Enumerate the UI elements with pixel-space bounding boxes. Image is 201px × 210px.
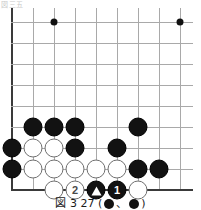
go-stone-white[interactable] (45, 160, 64, 179)
board-line-horizontal (11, 85, 193, 86)
caption-separator: 、 (116, 197, 127, 210)
go-stone-white[interactable] (87, 160, 106, 179)
go-stone-black[interactable] (108, 139, 127, 158)
caption-left-text: 図 3 27 ( (55, 197, 102, 210)
move-number-label: 2 (72, 185, 78, 196)
go-stone-black[interactable] (129, 118, 148, 137)
go-stone-black[interactable] (24, 118, 43, 137)
board-line-horizontal (11, 43, 193, 44)
go-stone-white[interactable] (24, 139, 43, 158)
go-stone-black[interactable] (150, 160, 169, 179)
go-stone-black[interactable] (45, 118, 64, 137)
star-point (177, 19, 184, 26)
go-stone-black[interactable] (129, 160, 148, 179)
go-stone-white[interactable] (108, 160, 127, 179)
go-stone-white[interactable] (45, 139, 64, 158)
caption-black-stone-1 (104, 199, 114, 209)
go-stone-black[interactable] (3, 139, 22, 158)
figure-caption: 図 3 27 ( 、 ) (0, 197, 201, 210)
triangle-marker-icon (91, 186, 101, 195)
star-point (51, 19, 58, 26)
board-line-horizontal (11, 22, 193, 23)
go-board[interactable]: 21 (0, 0, 201, 200)
go-stone-black[interactable] (66, 139, 85, 158)
go-stone-black[interactable] (66, 118, 85, 137)
board-line-vertical (180, 8, 181, 190)
go-diagram-figure: 図三五 21 図 3 27 ( 、 ) (0, 0, 201, 210)
move-number-label: 1 (114, 185, 120, 196)
board-line-horizontal (11, 64, 193, 65)
go-stone-white[interactable] (66, 160, 85, 179)
caption-right-text: ) (141, 197, 145, 210)
go-stone-black[interactable] (3, 160, 22, 179)
caption-black-stone-2 (129, 199, 139, 209)
board-line-horizontal (11, 106, 193, 107)
go-stone-white[interactable] (24, 160, 43, 179)
